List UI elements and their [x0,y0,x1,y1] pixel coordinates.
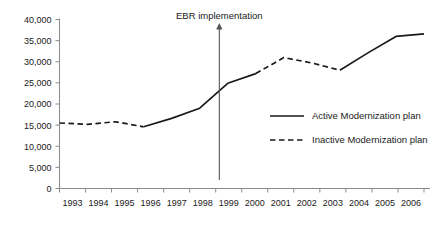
x-axis-ticks: 1993199419951996199719981999200020012002… [60,189,425,208]
y-tick-label: 0 [46,184,51,194]
chart-legend: Active Modernization planInactive Modern… [270,110,428,145]
y-tick-label: 10,000 [24,142,52,152]
x-tick-label: 2001 [271,198,291,208]
y-tick-label: 20,000 [24,99,52,109]
annotation-label: EBR implementation [176,10,263,21]
line-chart: 05,00010,00015,00020,00025,00030,00035,0… [0,0,441,228]
x-tick-label: 1999 [219,198,239,208]
annotation-ebr-implementation: EBR implementation [176,10,263,180]
x-tick-label: 1995 [115,198,135,208]
y-tick-label: 25,000 [24,78,52,88]
y-tick-label: 5,000 [29,163,52,173]
chart-canvas: 05,00010,00015,00020,00025,00030,00035,0… [0,0,441,228]
x-tick-label: 2000 [245,198,265,208]
x-tick-label: 1998 [193,198,213,208]
y-tick-label: 35,000 [24,36,52,46]
x-tick-label: 2005 [375,198,395,208]
y-axis-ticks: 05,00010,00015,00020,00025,00030,00035,0… [24,15,60,194]
x-tick-label: 2002 [297,198,317,208]
series-segment-solid-3 [340,34,424,70]
legend-label-1: Inactive Modernization plan [312,134,428,145]
x-tick-label: 1996 [141,198,161,208]
y-tick-label: 30,000 [24,57,52,67]
x-tick-label: 1994 [89,198,109,208]
annotation-arrowhead-icon [216,23,222,30]
x-tick-label: 1993 [63,198,83,208]
x-tick-label: 2006 [401,198,421,208]
series-segment-dashed-2 [256,58,340,74]
y-tick-label: 40,000 [24,15,52,25]
x-tick-label: 2003 [323,198,343,208]
x-tick-label: 1997 [167,198,187,208]
series-segment-solid-1 [144,74,256,127]
y-tick-label: 15,000 [24,121,52,131]
legend-label-0: Active Modernization plan [312,110,421,121]
x-tick-label: 2004 [349,198,369,208]
series-segment-dashed-0 [60,122,144,127]
